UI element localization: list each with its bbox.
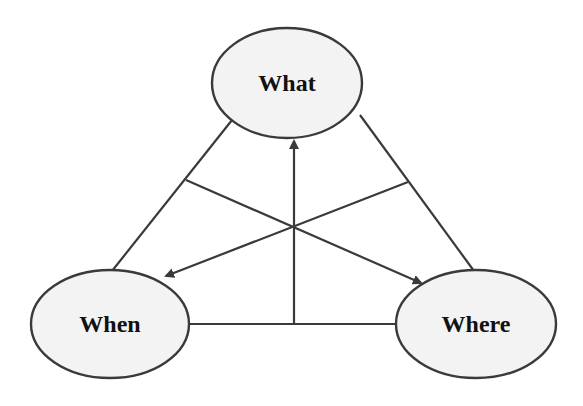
node-when-label: When bbox=[79, 311, 140, 337]
node-where: Where bbox=[396, 270, 556, 378]
node-what-label: What bbox=[258, 70, 315, 96]
node-where-label: Where bbox=[442, 311, 511, 337]
arrow-to-where bbox=[186, 180, 421, 283]
what-when-where-diagram: What When Where bbox=[0, 0, 583, 406]
node-when: When bbox=[31, 270, 189, 378]
node-what: What bbox=[212, 28, 362, 138]
